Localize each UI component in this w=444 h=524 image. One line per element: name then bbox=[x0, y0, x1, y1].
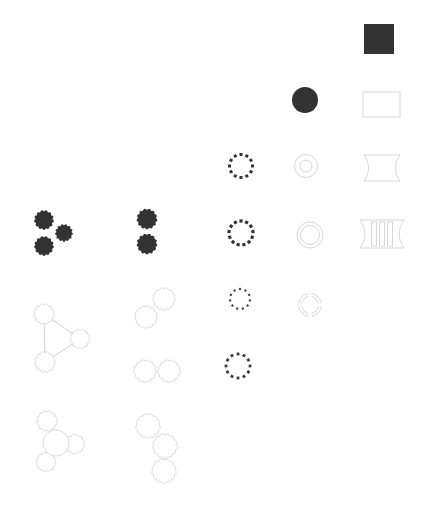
outline-rect-glyph bbox=[363, 92, 400, 117]
dotted-ring-glyph-1 bbox=[228, 153, 254, 179]
outline-gear-pair-diagonal-glyph bbox=[135, 288, 176, 329]
gear-network-glyph bbox=[34, 304, 90, 372]
dotted-ring-glyph-4 bbox=[225, 353, 252, 380]
spool-glyph bbox=[364, 155, 400, 181]
ribbed-spool-glyph bbox=[360, 220, 404, 248]
double-ring-glyph bbox=[297, 222, 323, 248]
outline-gear-cluster-glyph bbox=[36, 411, 84, 472]
solid-square-glyph bbox=[364, 24, 394, 54]
dotted-ring-glyph-2 bbox=[227, 219, 254, 246]
segmented-ring-glyph bbox=[297, 292, 324, 319]
dark-gear-pair-glyph bbox=[137, 209, 158, 255]
figure-canvas bbox=[0, 0, 444, 524]
outline-gear-pair-horizontal-glyph bbox=[134, 360, 181, 383]
glyph-grid-figure bbox=[0, 0, 444, 524]
outline-gear-chain-glyph bbox=[136, 414, 178, 484]
solid-circle-glyph bbox=[292, 87, 318, 113]
dotted-ring-glyph-3 bbox=[229, 288, 251, 310]
dark-gear-trio-glyph bbox=[34, 210, 73, 256]
concentric-circles-glyph bbox=[295, 155, 318, 178]
